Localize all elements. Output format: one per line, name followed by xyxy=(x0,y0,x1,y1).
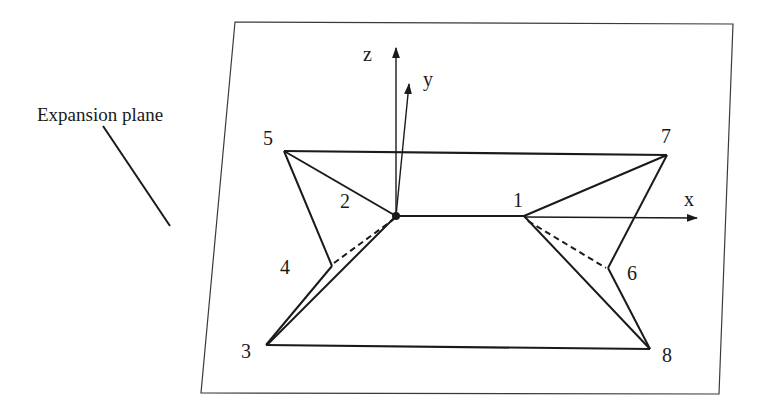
x-axis xyxy=(524,217,697,218)
edge-5-4 xyxy=(284,151,332,266)
y-axis xyxy=(396,84,409,216)
origin-point xyxy=(392,212,400,220)
expansion-plane xyxy=(201,22,733,394)
y-axis-label: y xyxy=(423,68,433,91)
vertex-label-5: 5 xyxy=(263,127,273,149)
vertex-label-6: 6 xyxy=(627,262,637,284)
vertex-label-4: 4 xyxy=(280,256,290,278)
edge-7-1 xyxy=(524,155,667,216)
plane-leader-line xyxy=(103,126,170,226)
edge-7-6 xyxy=(608,155,667,268)
vertex-label-3: 3 xyxy=(241,340,251,362)
vertex-label-1: 1 xyxy=(513,189,523,211)
edge-2-3 xyxy=(268,216,396,344)
edge-3-8 xyxy=(266,345,650,349)
diagram-canvas: Expansion plane z y x 1 2 3 4 5 xyxy=(0,0,761,418)
plane-label: Expansion plane xyxy=(37,104,163,125)
vertex-label-2: 2 xyxy=(340,190,350,212)
vertex-label-7: 7 xyxy=(661,125,671,147)
vertex-label-8: 8 xyxy=(662,344,672,366)
edge-5-7 xyxy=(284,151,667,155)
z-axis-label: z xyxy=(363,43,372,65)
edge-4-3 xyxy=(266,266,332,345)
edge-4-2-hidden xyxy=(334,219,394,263)
x-axis-label: x xyxy=(684,188,694,210)
